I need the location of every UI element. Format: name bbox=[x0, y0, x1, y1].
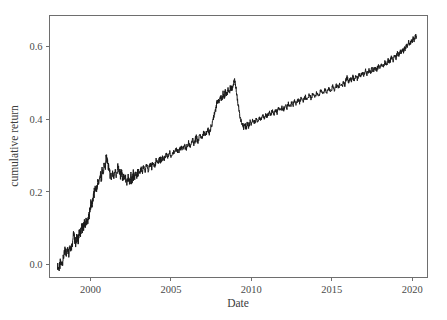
x-axis-tick-labels: 20002005201020152020 bbox=[80, 284, 423, 295]
chart-figure: 20002005201020152020 0.00.20.40.6 Date c… bbox=[0, 0, 447, 320]
y-axis-title: cumulative return bbox=[8, 105, 20, 187]
x-tick-label-2010: 2010 bbox=[241, 284, 262, 295]
y-axis-tick-labels: 0.00.20.40.6 bbox=[29, 41, 43, 270]
x-tick-label-2020: 2020 bbox=[402, 284, 423, 295]
x-axis-ticks bbox=[91, 278, 413, 282]
y-tick-label-0.2: 0.2 bbox=[29, 187, 42, 198]
y-tick-label-0.0: 0.0 bbox=[29, 259, 42, 270]
plot-area: 20002005201020152020 0.00.20.40.6 Date c… bbox=[0, 0, 447, 320]
data-series-group bbox=[58, 34, 417, 271]
x-axis-title: Date bbox=[227, 297, 249, 309]
x-tick-label-2015: 2015 bbox=[321, 284, 342, 295]
series-line-cumulative-return bbox=[58, 34, 417, 271]
y-axis-ticks bbox=[46, 46, 50, 264]
axis-spines bbox=[50, 16, 428, 278]
x-tick-label-2000: 2000 bbox=[80, 284, 101, 295]
y-tick-label-0.6: 0.6 bbox=[29, 41, 42, 52]
x-tick-label-2005: 2005 bbox=[160, 284, 181, 295]
y-tick-label-0.4: 0.4 bbox=[29, 114, 43, 125]
